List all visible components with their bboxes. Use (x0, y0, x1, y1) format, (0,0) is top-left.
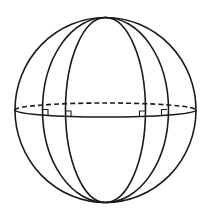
meridian-outer (43, 18, 169, 203)
sphere-diagram (0, 0, 208, 218)
meridian-inner (66, 18, 146, 203)
sphere-svg (0, 0, 208, 218)
